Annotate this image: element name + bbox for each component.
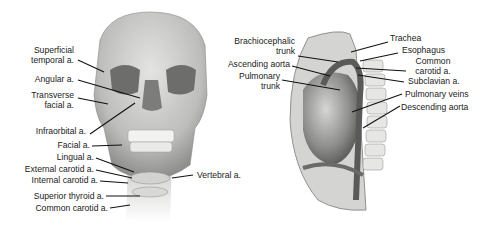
label-angular-artery: Angular a. [18, 75, 74, 85]
label-esophagus: Esophagus [402, 46, 445, 56]
label-line: Internal carotid a. [4, 176, 98, 186]
label-trachea: Trachea [390, 34, 421, 44]
label-line: Vertebral a. [197, 171, 241, 181]
label-facial-artery: Facial a. [10, 141, 90, 151]
label-internal-carotid-artery: Internal carotid a. [4, 176, 98, 186]
label-line: Common carotid a. [4, 204, 108, 214]
label-line: Ascending aorta [208, 60, 290, 70]
label-lingual-artery: Lingual a. [10, 153, 94, 163]
label-superficial-temporal-artery: Superficial temporal a. [18, 46, 74, 65]
label-line: Superior thyroid a. [4, 192, 104, 202]
label-line: Lingual a. [10, 153, 94, 163]
label-transverse-facial-artery: Transverse facial a. [18, 91, 74, 110]
label-line: Subclavian a. [408, 77, 460, 87]
thorax-illustration [248, 0, 496, 229]
label-pulmonary-veins: Pulmonary veins [405, 90, 469, 100]
label-line: trunk [218, 47, 295, 57]
label-line: trunk [208, 82, 280, 92]
label-line: Pulmonary veins [405, 90, 469, 100]
label-line: External carotid a. [4, 165, 94, 175]
label-pulmonary-trunk: Pulmonary trunk [208, 72, 280, 91]
label-line: Esophagus [402, 46, 445, 56]
label-line: carotid a. [410, 67, 456, 77]
label-external-carotid-artery: External carotid a. [4, 165, 94, 175]
label-line: Facial a. [10, 141, 90, 151]
label-common-carotid-artery-thorax: Common carotid a. [410, 57, 456, 76]
label-brachiocephalic-trunk: Brachiocephalic trunk [218, 37, 295, 56]
label-infraorbital-artery: Infraorbital a. [10, 127, 86, 137]
label-subclavian-artery: Subclavian a. [408, 77, 460, 87]
label-line: Angular a. [18, 75, 74, 85]
label-superior-thyroid-artery: Superior thyroid a. [4, 192, 104, 202]
label-ascending-aorta: Ascending aorta [208, 60, 290, 70]
label-descending-aorta: Descending aorta [401, 103, 468, 113]
label-common-carotid-artery: Common carotid a. [4, 204, 108, 214]
head-neck-figure: Superficial temporal a. Angular a. Trans… [0, 0, 248, 229]
label-line: facial a. [18, 101, 74, 111]
label-line: Trachea [390, 34, 421, 44]
label-line: temporal a. [18, 56, 74, 66]
label-line: Infraorbital a. [10, 127, 86, 137]
label-vertebral-artery: Vertebral a. [197, 171, 241, 181]
label-line: Descending aorta [401, 103, 468, 113]
thorax-figure: Brachiocephalic trunk Ascending aorta Pu… [248, 0, 496, 229]
